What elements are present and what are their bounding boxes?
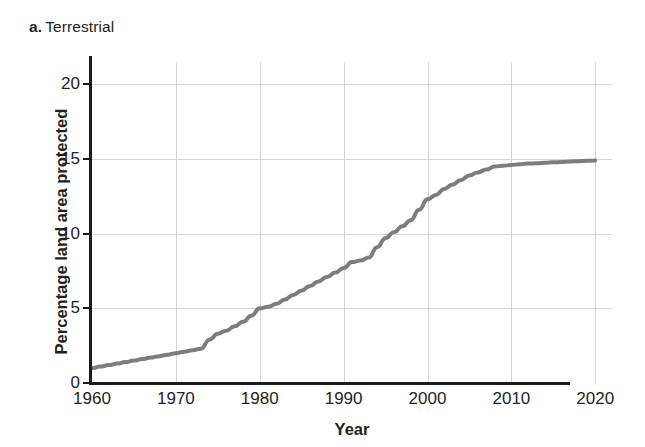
y-tick-mark-20 [83, 83, 90, 85]
y-axis-spine [89, 56, 92, 385]
y-tick-mark-10 [83, 233, 90, 235]
x-axis-spine [89, 382, 570, 385]
x-tick-label-1970: 1970 [141, 390, 211, 407]
x-tick-label-1960: 1960 [57, 390, 127, 407]
data-line-svg [92, 62, 612, 383]
y-tick-label-15: 15 [42, 150, 80, 167]
x-axis-title: Year [92, 420, 612, 439]
y-tick-label-20: 20 [42, 75, 80, 92]
x-tick-label-2000: 2000 [393, 390, 463, 407]
x-tick-label-2020: 2020 [560, 390, 630, 407]
y-tick-label-10: 10 [42, 225, 80, 242]
y-tick-mark-0 [83, 382, 90, 384]
y-axis-tick-labels: 05101520 [38, 0, 80, 447]
x-tick-label-2010: 2010 [476, 390, 546, 407]
terrestrial-protected-area-chart: a.Terrestrial Percentage land area prote… [0, 0, 645, 447]
data-line-path [92, 161, 595, 369]
plot-area [92, 62, 612, 383]
x-tick-label-1990: 1990 [309, 390, 379, 407]
x-tick-label-1980: 1980 [225, 390, 295, 407]
y-tick-mark-15 [83, 158, 90, 160]
y-tick-mark-5 [83, 307, 90, 309]
y-tick-label-5: 5 [42, 299, 80, 316]
